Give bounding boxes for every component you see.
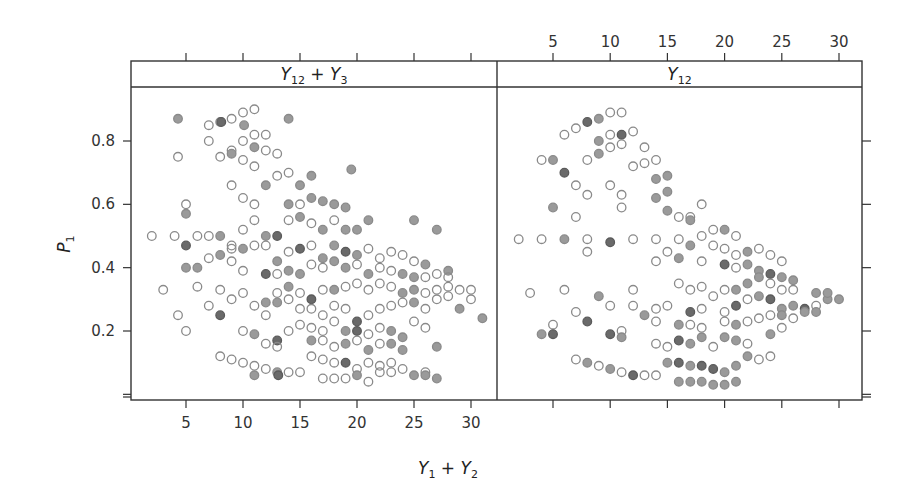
data-point (743, 339, 752, 348)
data-point (387, 327, 396, 336)
data-point (240, 121, 249, 130)
data-point (284, 267, 293, 276)
x-tick-label-top: 30 (829, 33, 848, 51)
data-point (444, 282, 453, 291)
data-point (766, 251, 775, 260)
data-point (341, 282, 350, 291)
data-point (675, 320, 684, 329)
data-point (595, 137, 604, 146)
data-point (284, 168, 293, 177)
data-point (709, 381, 718, 390)
data-point (364, 358, 373, 367)
data-point (182, 210, 191, 219)
axes: 55101015152020252530300.20.40.60.8 (91, 33, 871, 432)
data-point (549, 320, 558, 329)
data-point (227, 115, 236, 124)
data-point (606, 238, 615, 247)
data-point (330, 317, 339, 326)
data-point (347, 165, 356, 174)
data-point (205, 137, 214, 146)
data-point (250, 105, 259, 114)
data-point (732, 232, 741, 241)
data-point (296, 289, 305, 298)
data-point (663, 301, 672, 310)
data-point (239, 289, 248, 298)
data-point (686, 377, 695, 386)
data-point (239, 358, 248, 367)
data-point (640, 371, 649, 380)
data-point (410, 317, 419, 326)
data-point (789, 301, 798, 310)
data-point (663, 206, 672, 215)
data-point (595, 292, 604, 301)
data-point (617, 108, 626, 117)
data-point (766, 295, 775, 304)
data-point (617, 130, 626, 139)
data-point (193, 263, 202, 272)
data-point (743, 317, 752, 326)
data-point (560, 168, 569, 177)
data-point (583, 235, 592, 244)
data-point (732, 263, 741, 272)
data-point (583, 358, 592, 367)
data-point (755, 292, 764, 301)
data-point (537, 156, 546, 165)
data-point (182, 327, 191, 336)
data-point (410, 286, 419, 295)
data-point (778, 273, 787, 282)
data-point (227, 181, 236, 190)
data-point (341, 263, 350, 272)
data-point (686, 286, 695, 295)
data-point (766, 279, 775, 288)
data-point (284, 200, 293, 209)
data-point (307, 260, 316, 269)
data-point (205, 254, 214, 263)
data-point (319, 263, 328, 272)
data-point (319, 327, 328, 336)
y-axis-label: P1 (54, 235, 77, 252)
data-point (778, 257, 787, 266)
data-point (341, 339, 350, 348)
data-point (549, 330, 558, 339)
x-tick-label: 30 (461, 414, 480, 432)
data-point (182, 241, 191, 250)
data-point (341, 305, 350, 314)
data-point (663, 343, 672, 352)
data-point (262, 270, 271, 279)
data-point (663, 172, 672, 181)
y-tick-label: 0.4 (91, 259, 115, 277)
data-point (398, 298, 407, 307)
x-tick-label-top: 5 (548, 33, 558, 51)
data-point (595, 115, 604, 124)
data-point (296, 270, 305, 279)
data-point (398, 346, 407, 355)
data-point (433, 343, 442, 352)
data-point (617, 140, 626, 149)
data-point (284, 248, 293, 257)
panel-1-points (148, 105, 487, 386)
data-point (296, 181, 305, 190)
panel-title-1: Y12 + Y3 (281, 64, 348, 87)
data-point (284, 327, 293, 336)
data-point (835, 295, 844, 304)
data-point (606, 365, 615, 374)
data-point (239, 225, 248, 234)
data-point (800, 308, 809, 317)
data-point (398, 270, 407, 279)
data-point (640, 311, 649, 320)
data-point (307, 172, 316, 181)
data-point (307, 219, 316, 228)
data-point (595, 362, 604, 371)
data-point (720, 286, 729, 295)
data-point (617, 203, 626, 212)
lattice-scatter-chart: Y12 + Y3Y12 55101015152020252530300.20.4… (0, 0, 907, 504)
data-point (421, 273, 430, 282)
data-point (319, 374, 328, 383)
data-point (595, 149, 604, 158)
data-point (330, 343, 339, 352)
data-point (675, 336, 684, 345)
data-point (421, 260, 430, 269)
data-point (250, 301, 259, 310)
data-point (174, 115, 183, 124)
data-point (766, 330, 775, 339)
